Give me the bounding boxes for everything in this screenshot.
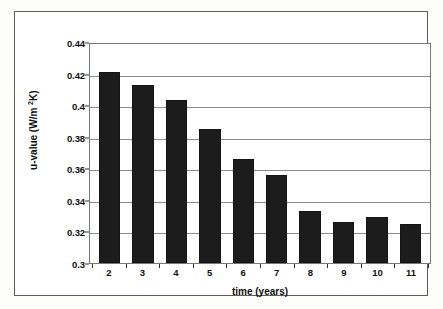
- y-axis-ticks: 0.440.420.40.380.360.340.320.3: [35, 43, 85, 264]
- bar-slot: [360, 44, 393, 263]
- bar: [333, 222, 354, 263]
- chart-page: 0.440.420.40.380.360.340.320.3 u-value (…: [0, 0, 443, 309]
- x-axis-tick-label: 4: [159, 267, 193, 278]
- x-axis-title: time (years): [89, 286, 431, 297]
- x-axis-tick-label: 8: [294, 267, 328, 278]
- y-axis-tick-label: 0.3: [41, 259, 85, 270]
- x-axis-tick-label: 10: [361, 267, 395, 278]
- bar-slot: [327, 44, 360, 263]
- bar-slot: [160, 44, 193, 263]
- bar-slot: [126, 44, 159, 263]
- bar: [99, 72, 120, 263]
- y-axis-tick-label: 0.38: [41, 132, 85, 143]
- bar-slot: [227, 44, 260, 263]
- bar: [366, 217, 387, 263]
- y-axis-tick-label: 0.32: [41, 227, 85, 238]
- bar-slot: [193, 44, 226, 263]
- y-axis-title-exponent: 2: [27, 101, 34, 105]
- x-axis-tick-label: 9: [327, 267, 361, 278]
- x-axis-ticks: 234567891011: [89, 267, 431, 278]
- bar: [233, 159, 254, 263]
- bar: [199, 129, 220, 263]
- y-axis-tick-label: 0.34: [41, 195, 85, 206]
- bar: [166, 100, 187, 263]
- bar: [299, 211, 320, 263]
- y-axis-title-prefix: u-value (W/m: [28, 105, 39, 170]
- x-axis-tick-label: 6: [226, 267, 260, 278]
- y-axis-title-suffix: K): [28, 90, 39, 101]
- y-axis-tick-label: 0.36: [41, 164, 85, 175]
- bar: [266, 175, 287, 263]
- bar-series: [90, 44, 430, 263]
- x-axis-tick-label: 2: [92, 267, 126, 278]
- x-axis-tick-label: 5: [193, 267, 227, 278]
- y-axis-tick-label: 0.4: [41, 101, 85, 112]
- x-axis-tick-label: 11: [394, 267, 428, 278]
- chart-outer-frame: 0.440.420.40.380.360.340.320.3 u-value (…: [14, 11, 428, 296]
- bar-slot: [293, 44, 326, 263]
- bar-slot: [394, 44, 427, 263]
- bar: [132, 85, 153, 263]
- plot-area: [89, 43, 431, 264]
- x-axis-tick-label: 3: [126, 267, 160, 278]
- x-axis-tick-label: 7: [260, 267, 294, 278]
- bar: [400, 224, 421, 263]
- y-axis-tick-label: 0.42: [41, 69, 85, 80]
- y-axis-tick-label: 0.44: [41, 38, 85, 49]
- bar-slot: [93, 44, 126, 263]
- bar-slot: [260, 44, 293, 263]
- y-axis-title: u-value (W/m 2K): [27, 50, 39, 210]
